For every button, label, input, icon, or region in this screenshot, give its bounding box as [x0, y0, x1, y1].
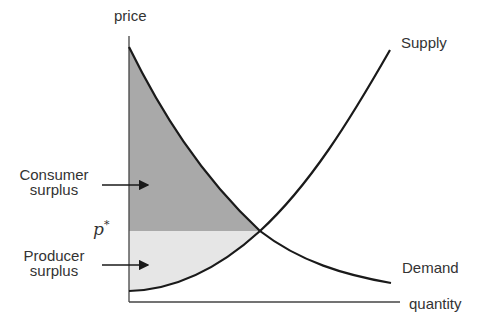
consumer-surplus-line1: Consumer	[14, 167, 94, 182]
producer-surplus-region	[129, 231, 260, 291]
consumer-surplus-region	[129, 47, 260, 231]
producer-surplus-line1: Producer	[14, 248, 94, 263]
consumer-surplus-label: Consumer surplus	[14, 167, 94, 197]
demand-label: Demand	[402, 260, 459, 275]
producer-surplus-line2: surplus	[14, 263, 94, 278]
producer-surplus-label: Producer surplus	[14, 248, 94, 278]
y-axis-label: price	[114, 8, 147, 23]
equilibrium-price-label: p*	[93, 218, 109, 239]
consumer-surplus-line2: surplus	[14, 182, 94, 197]
supply-label: Supply	[401, 35, 447, 50]
x-axis-label: quantity	[409, 296, 462, 311]
